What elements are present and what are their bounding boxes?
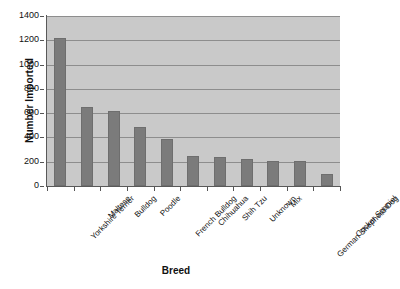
x-tick-label: Poodle: [159, 194, 183, 218]
x-tick-label: Bulldog: [133, 194, 158, 219]
x-tick-label: Cocker Spaniel: [354, 194, 399, 239]
x-axis-title: Breed: [0, 265, 352, 276]
